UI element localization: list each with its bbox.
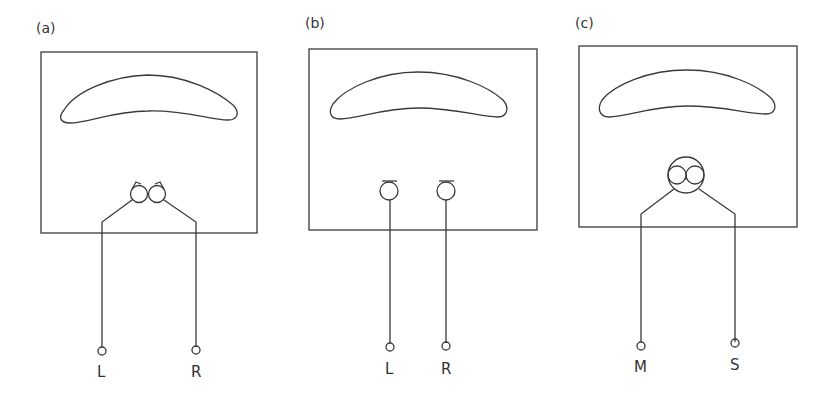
cable-mid-c (641, 189, 674, 342)
output-terminal-left-a (98, 347, 106, 355)
diagram-canvas: (a) L R (b) L R (c) (0, 0, 834, 397)
ms-capsule-side-c (686, 166, 704, 184)
output-label-R-b: R (441, 360, 451, 378)
ms-capsule-mid-c (668, 166, 686, 184)
panel-b: (b) L R (305, 15, 537, 378)
output-label-S-c: S (730, 356, 740, 374)
mic-omni-right-b (437, 182, 455, 200)
output-terminal-right-b (442, 342, 450, 350)
panel-label-a: (a) (36, 20, 56, 36)
panel-c: (c) M S (575, 15, 797, 376)
room-box-a (41, 52, 257, 233)
room-box-b (309, 49, 537, 230)
output-terminal-mid-c (637, 342, 645, 350)
sound-source-shape-c (599, 70, 775, 117)
cable-side-c (699, 189, 735, 342)
panel-label-c: (c) (575, 15, 594, 31)
output-label-M-c: M (634, 358, 647, 376)
output-label-L-b: L (385, 360, 394, 378)
room-box-c (579, 46, 797, 227)
sound-source-shape-b (330, 72, 507, 119)
panel-a: (a) L R (36, 20, 257, 381)
sound-source-shape-a (61, 75, 238, 123)
cable-right-a (164, 200, 196, 347)
output-terminal-left-b (386, 343, 394, 351)
mic-omni-left-b (380, 182, 398, 200)
cable-left-a (102, 200, 132, 347)
output-label-R-a: R (191, 363, 201, 381)
panel-label-b: (b) (305, 15, 325, 31)
output-terminal-right-a (192, 346, 200, 354)
output-label-L-a: L (97, 363, 106, 381)
